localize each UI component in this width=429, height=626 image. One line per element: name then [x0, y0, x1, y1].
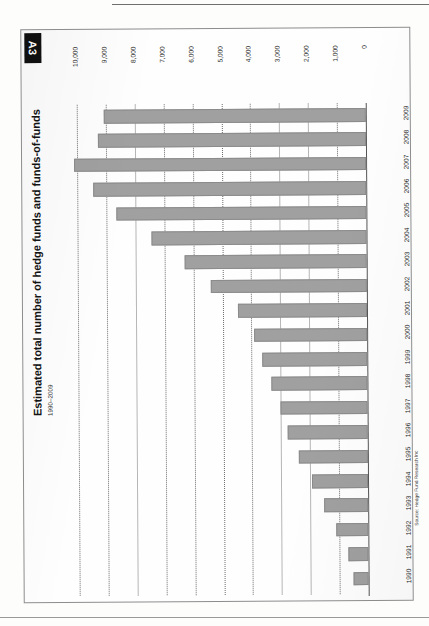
bar — [254, 328, 367, 342]
bar — [336, 523, 368, 537]
bar — [353, 572, 368, 586]
chart-plot-area: 10,0009,0008,0007,0006,0005,0004,0003,00… — [54, 46, 379, 596]
gridline — [163, 104, 167, 595]
bar — [263, 352, 368, 366]
value-axis-tick-label: 0 — [360, 45, 370, 89]
gridline — [135, 104, 139, 595]
page: A3 Estimated total number of hedge funds… — [0, 0, 429, 626]
figure-title: Estimated total number of hedge funds an… — [29, 56, 43, 416]
exhibit-figure: A3 Estimated total number of hedge funds… — [20, 27, 413, 603]
bar — [151, 230, 366, 245]
source-note: Source: Hedge Fund Research Inc — [414, 416, 424, 526]
value-axis-tick-label: 9,000 — [100, 47, 110, 91]
value-axis-tick-label: 5,000 — [216, 46, 226, 90]
bar — [287, 425, 367, 439]
exhibit-number-label: A3 — [27, 41, 39, 56]
bar — [116, 206, 366, 221]
gridline — [192, 104, 196, 595]
bar — [299, 450, 368, 464]
bar — [98, 132, 366, 147]
bar — [185, 254, 367, 269]
value-axis-tick-label: 3,000 — [274, 46, 284, 90]
gridline — [250, 104, 254, 595]
gridline — [106, 105, 110, 596]
value-axis-tick-label: 10,000 — [71, 47, 81, 91]
value-axis-tick-label: 8,000 — [129, 46, 139, 90]
bar — [74, 157, 366, 172]
page-top-rule — [112, 4, 429, 5]
value-axis: 10,0009,0008,0007,0006,0005,0004,0003,00… — [54, 46, 376, 48]
bar — [271, 376, 367, 390]
figure-subtitle: 1990–2009 — [44, 56, 53, 416]
bar — [93, 181, 366, 196]
value-axis-tick-label: 6,000 — [187, 46, 197, 90]
gridline — [308, 103, 312, 594]
value-axis-tick-label: 4,000 — [245, 46, 255, 90]
bar — [312, 474, 368, 488]
bar — [211, 279, 367, 293]
gridline — [221, 104, 225, 595]
page-bottom-rule — [0, 617, 429, 618]
value-axis-tick-label: 1,000 — [331, 45, 341, 89]
bar — [104, 108, 366, 123]
bar — [281, 401, 368, 415]
gridline — [337, 103, 341, 594]
bar — [348, 547, 368, 561]
value-axis-tick-label: 7,000 — [158, 46, 168, 90]
gridline — [279, 104, 283, 595]
bar — [238, 303, 367, 317]
value-axis-tick-label: 2,000 — [303, 45, 313, 89]
bar — [324, 498, 368, 512]
gridline — [77, 105, 81, 596]
category-axis-tick-label: 1990 — [405, 550, 414, 584]
